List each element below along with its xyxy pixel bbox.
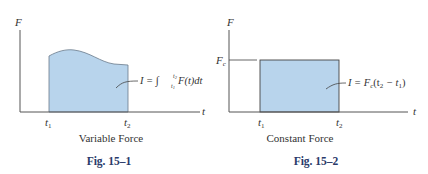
t1-label: t1 [45, 116, 52, 130]
subtitle-constant-force: Constant Force [267, 132, 334, 144]
x-axis-label: t [413, 105, 417, 117]
impulse-diagrams: F t t1 t2 I = ∫ t2 t1 F(t)dt Variable Fo… [0, 0, 428, 174]
integral-lower-limit: t1 [171, 83, 175, 90]
y-axis-label: F [14, 16, 22, 28]
t2-label: t2 [124, 116, 131, 130]
integral-upper-limit: t2 [173, 73, 178, 80]
figure-caption-15-1: Fig. 15–1 [87, 155, 132, 168]
integrand: F(t)dt [177, 75, 204, 87]
impulse-area-constant [260, 60, 339, 112]
y-axis-label: F [226, 16, 234, 28]
subtitle-variable-force: Variable Force [79, 132, 144, 144]
figure-variable-force: F t t1 t2 I = ∫ t2 t1 F(t)dt Variable Fo… [14, 16, 206, 168]
t2-label: t2 [336, 116, 343, 130]
figure-constant-force: F t Fc t1 t2 I = Fc(t2 − t1) Constant Fo… [215, 16, 417, 168]
fc-label: Fc [215, 54, 227, 68]
t1-label: t1 [258, 116, 265, 130]
figure-caption-15-2: Fig. 15–2 [294, 155, 339, 168]
impulse-area-variable [49, 50, 128, 112]
x-axis-label: t [202, 105, 206, 117]
impulse-equation-constant: I = Fc(t2 − t1) [347, 77, 406, 90]
impulse-equation-variable: I = ∫ [139, 74, 160, 87]
